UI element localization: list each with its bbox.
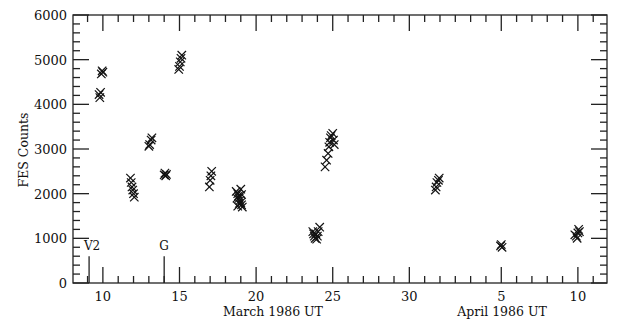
event-marker-label: G [159,239,169,253]
x-axis-title-april: April 1986 UT [456,304,547,319]
axis-ticks [73,15,607,283]
y-tick-label: 0 [59,276,67,291]
y-axis-title: FES Counts [16,113,31,188]
x-tick-label: 15 [171,289,188,304]
y-tick-label: 2000 [34,187,67,202]
x-tick-label: 5 [497,289,505,304]
x-tick-label: 30 [401,289,418,304]
plot-border [73,15,607,283]
y-tick-label: 5000 [34,53,67,68]
y-tick-label: 4000 [34,97,67,112]
event-marker-label: V2 [83,239,100,253]
y-tick-label: 1000 [34,231,67,246]
y-tick-label: 6000 [34,8,67,23]
x-tick-label: 10 [570,289,587,304]
data-points [95,51,584,251]
x-axis-title-march: March 1986 UT [223,304,324,319]
tick-labels: 10152025305100100020003000400050006000 [34,8,586,304]
y-tick-label: 3000 [34,142,67,157]
x-tick-label: 10 [95,289,112,304]
plot-frame [73,15,607,283]
x-tick-label: 25 [324,289,341,304]
scatter-chart: 10152025305100100020003000400050006000 V… [0,0,619,324]
x-tick-label: 20 [248,289,265,304]
event-markers: V2G [83,239,169,283]
